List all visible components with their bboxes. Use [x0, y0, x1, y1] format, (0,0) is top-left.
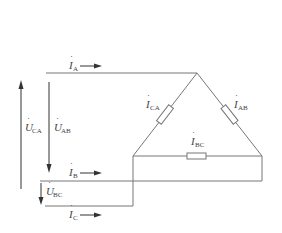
arrowhead-right-icon [94, 171, 102, 176]
svg-text:CA: CA [150, 104, 160, 112]
label-i-ab: · I AB [233, 90, 248, 112]
current-arrow-b [80, 171, 102, 176]
label-u-bc: · U BC [46, 177, 63, 199]
svg-text:BC: BC [195, 141, 205, 149]
label-i-b: · I B [68, 158, 78, 180]
svg-text:C: C [73, 214, 78, 222]
voltage-arrow-ab [47, 82, 52, 173]
arrowhead-up-icon [19, 80, 24, 89]
svg-text:BC: BC [53, 191, 63, 199]
label-i-bc: · I BC [190, 127, 205, 149]
svg-text:AB: AB [61, 127, 71, 135]
svg-text:CA: CA [32, 127, 42, 135]
label-u-ca: · U CA [25, 113, 42, 135]
label-i-c: · I C [68, 200, 78, 222]
delta-circuit-diagram: · I A · I B · I C · I CA · I AB · I BC ·… [0, 0, 282, 233]
resistor-bc [187, 153, 206, 159]
current-arrow-a [80, 64, 102, 69]
current-arrow-c [80, 213, 102, 218]
label-u-ab: · U AB [54, 113, 71, 135]
voltage-arrow-ca [19, 80, 24, 189]
svg-text:AB: AB [238, 104, 248, 112]
arrowhead-down-icon [39, 197, 44, 205]
voltage-arrow-bc [39, 183, 44, 205]
svg-text:B: B [73, 172, 78, 180]
arrowhead-down-icon [47, 164, 52, 173]
arrowhead-right-icon [94, 213, 102, 218]
arrowhead-right-icon [94, 64, 102, 69]
svg-text:A: A [73, 65, 78, 73]
label-i-ca: · I CA [145, 90, 160, 112]
label-i-a: · I A [68, 51, 78, 73]
